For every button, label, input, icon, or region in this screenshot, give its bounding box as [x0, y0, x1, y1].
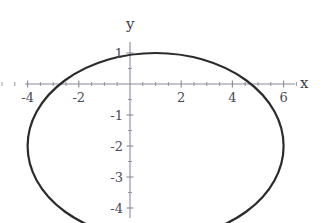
x-axis-label: x [300, 76, 308, 91]
ellipse-curve [28, 53, 284, 223]
y-axis-label: y [126, 17, 134, 32]
x-tick-label: -4 [21, 91, 34, 104]
y-tick-label: -4 [110, 202, 123, 215]
y-tick-label: 1 [115, 47, 123, 60]
y-tick-label: -1 [110, 109, 123, 122]
x-tick-label: -2 [72, 91, 85, 104]
x-tick-label: 2 [177, 91, 185, 104]
plot-canvas [0, 0, 323, 223]
axis-lines [25, 42, 295, 218]
x-tick-label: 4 [228, 91, 236, 104]
x-tick-label: 6 [279, 91, 287, 104]
y-tick-label: -3 [110, 171, 123, 184]
y-tick-label: -2 [110, 140, 123, 153]
ellipse-plot-figure: -4-22461-1-2-3-4-5 x y [0, 0, 323, 223]
